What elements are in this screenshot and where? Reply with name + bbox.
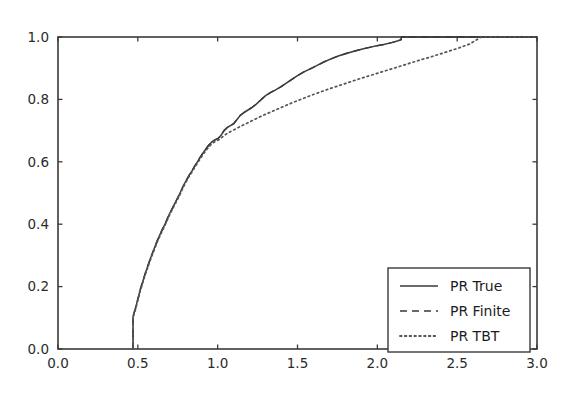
cdf-line-chart: 0.00.51.01.52.02.53.0 0.00.20.40.60.81.0…: [0, 0, 564, 404]
y-tick-label-2: 0.4: [28, 216, 49, 232]
legend-label-pr-tbt: PR TBT: [450, 328, 500, 344]
y-tick-label-0: 0.0: [28, 341, 49, 357]
y-tick-label-3: 0.6: [28, 154, 49, 170]
x-tick-label-2: 1.0: [207, 355, 228, 371]
chart-figure: 0.00.51.01.52.02.53.0 0.00.20.40.60.81.0…: [0, 0, 564, 404]
x-tick-label-0: 0.0: [47, 355, 68, 371]
legend-label-pr-true: PR True: [450, 278, 502, 294]
chart-legend: PR TruePR FinitePR TBT: [388, 268, 530, 352]
x-tick-label-3: 1.5: [287, 355, 308, 371]
x-tick-label-5: 2.5: [446, 355, 467, 371]
y-tick-label-5: 1.0: [28, 29, 49, 45]
y-tick-label-4: 0.8: [28, 91, 49, 107]
legend-label-pr-finite: PR Finite: [450, 303, 510, 319]
x-tick-label-6: 3.0: [526, 355, 547, 371]
x-tick-label-4: 2.0: [367, 355, 388, 371]
y-tick-label-1: 0.2: [28, 278, 49, 294]
x-tick-label-1: 0.5: [127, 355, 148, 371]
